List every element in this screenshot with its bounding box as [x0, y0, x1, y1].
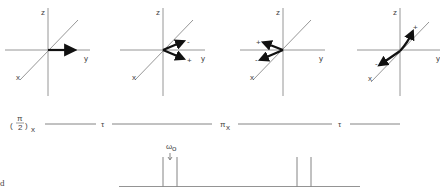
- vector-label-minus: -: [255, 55, 258, 64]
- z-label: z: [41, 8, 45, 17]
- vector-label-plus: +: [187, 56, 192, 65]
- paren-open: (: [10, 121, 13, 130]
- rotating-frame-panel-3: z y x + -: [240, 8, 325, 96]
- spectrum: ω o d: [0, 142, 360, 187]
- rotating-frame-panel-4: z y x + -: [357, 8, 440, 96]
- x-label: x: [16, 73, 20, 82]
- pulse2-subscript: x: [226, 123, 230, 132]
- z-label: z: [393, 8, 397, 17]
- pulse-sequence: ( π 2 ) x τ π x τ: [10, 114, 400, 134]
- delay2-label: τ: [338, 120, 342, 129]
- fast-spin-vector-icon: [163, 42, 182, 50]
- pulse1-subscript: x: [31, 125, 35, 134]
- delay1-label: τ: [101, 120, 105, 129]
- x-label: x: [250, 73, 254, 82]
- paren-close: ): [25, 121, 28, 130]
- spin-vector-icon: [262, 50, 283, 59]
- vector-label-minus: -: [375, 59, 378, 68]
- y-label: y: [201, 54, 205, 63]
- vector-label-plus: +: [413, 23, 418, 32]
- side-label: d: [0, 178, 5, 187]
- spin-echo-diagram: z y x z y x - + z y x + - z y x: [0, 0, 440, 187]
- rotating-frame-panel-2: z y x - +: [120, 8, 205, 96]
- x-label: x: [368, 74, 372, 83]
- vector-label-plus: +: [256, 38, 261, 47]
- y-label: y: [436, 54, 440, 63]
- spin-vector-icon: [265, 43, 283, 50]
- y-label: y: [84, 54, 88, 63]
- pulse1-denominator: 2: [18, 123, 23, 132]
- z-label: z: [156, 8, 160, 17]
- center-frequency-subscript: o: [172, 144, 177, 153]
- slow-spin-vector-icon: [163, 50, 182, 58]
- z-label: z: [276, 8, 280, 17]
- vector-label-minus: -: [187, 37, 190, 46]
- y-label: y: [319, 54, 323, 63]
- x-label: x: [132, 73, 136, 82]
- rotating-frame-panel-1: z y x: [5, 8, 90, 96]
- pulse1-numerator: π: [17, 114, 23, 123]
